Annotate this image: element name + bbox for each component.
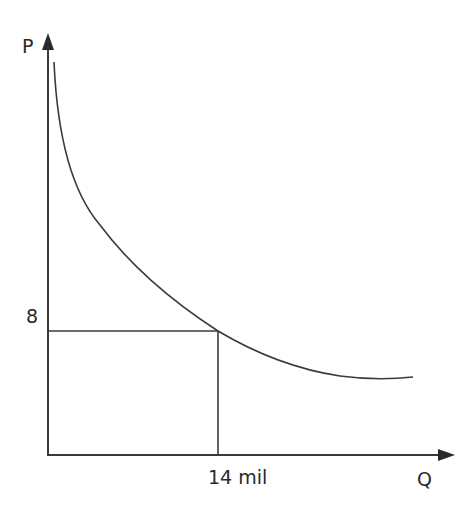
y-axis-arrow-icon <box>42 33 54 50</box>
demand-chart: P Q 8 14 mil <box>0 0 468 510</box>
quantity-tick-label: 14 mil <box>208 466 267 488</box>
price-tick-label: 8 <box>26 305 38 327</box>
x-axis-label: Q <box>417 468 432 490</box>
x-axis-arrow-icon <box>438 449 455 461</box>
y-axis-label: P <box>22 35 33 57</box>
